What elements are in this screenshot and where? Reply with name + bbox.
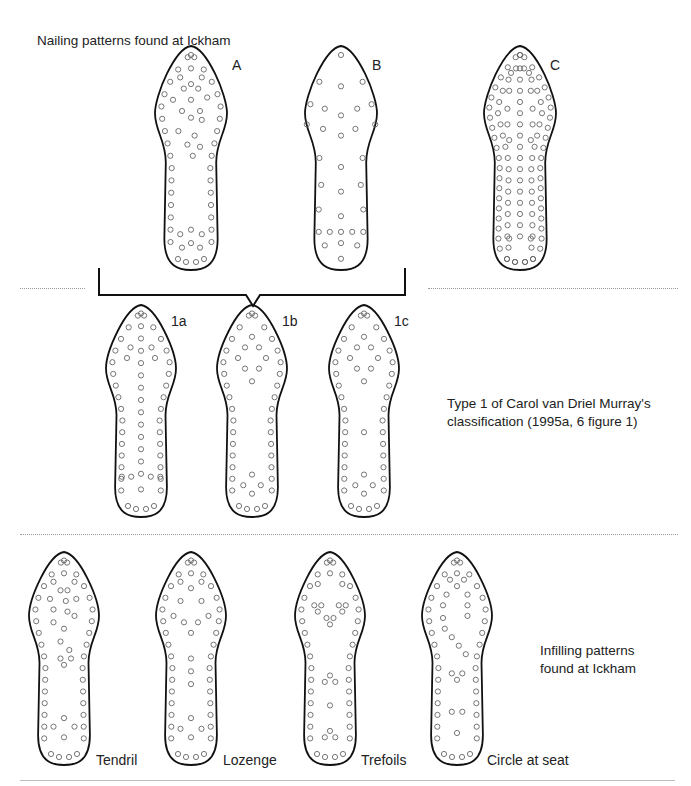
sole-outline-lozenge — [156, 552, 226, 765]
caption-type1-line2: classification (1995a, 6 figure 1) — [447, 413, 638, 430]
label-1c: 1c — [394, 313, 409, 329]
label-circle-at-seat: Circle at seat — [487, 752, 569, 768]
sole-outline-C — [484, 46, 556, 270]
caption-infill-line1: Infilling patterns — [540, 642, 635, 659]
sole-outline-tendril — [29, 552, 99, 765]
caption-infill-line2: found at Ickham — [540, 660, 636, 677]
label-1a: 1a — [171, 313, 187, 329]
sole-outline-1b — [217, 305, 287, 517]
label-tendril: Tendril — [96, 752, 137, 768]
bottom-rule — [20, 780, 675, 781]
caption-type1-line1: Type 1 of Carol van Driel Murray's — [447, 395, 651, 412]
grouping-bracket — [99, 268, 405, 306]
label-1b: 1b — [282, 313, 298, 329]
divider-left-upper — [20, 288, 85, 289]
sole-outline-B — [305, 46, 377, 270]
label-C: C — [550, 57, 560, 73]
divider-right-upper — [428, 288, 678, 289]
divider-lower — [20, 534, 678, 535]
sole-outline-1c — [329, 305, 399, 517]
label-A: A — [232, 57, 241, 73]
label-lozenge: Lozenge — [223, 752, 277, 768]
label-B: B — [372, 57, 381, 73]
sole-outline-circle — [422, 552, 492, 765]
sole-outline-1a — [106, 305, 176, 517]
label-trefoils: Trefoils — [361, 752, 406, 768]
sole-outline-trefoils — [295, 552, 365, 765]
